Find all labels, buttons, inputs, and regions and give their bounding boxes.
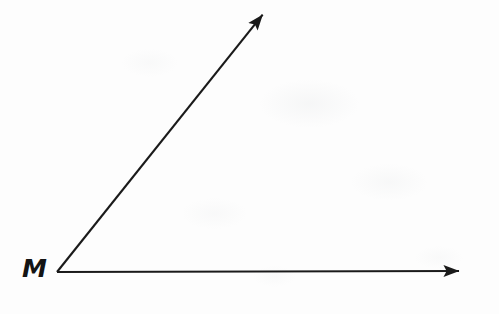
angle-diagram-svg	[0, 0, 499, 314]
diagonal-ray	[57, 15, 263, 272]
horizontal-ray	[57, 271, 459, 272]
angle-figure: M	[0, 0, 499, 314]
vertex-label-m: M	[22, 256, 47, 281]
